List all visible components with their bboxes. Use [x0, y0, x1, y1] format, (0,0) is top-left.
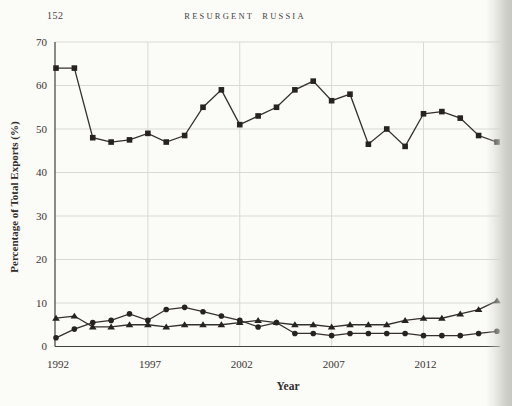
circle-marker — [494, 328, 500, 334]
circle-marker — [127, 311, 133, 317]
circle-marker — [182, 305, 188, 311]
circle-marker — [163, 307, 169, 313]
circle-marker — [402, 331, 408, 337]
square-marker — [310, 78, 316, 84]
triangle-marker — [493, 297, 501, 303]
circle-marker — [200, 309, 206, 315]
circle-marker — [90, 320, 96, 326]
y-tick-label: 70 — [36, 36, 48, 48]
circle-marker — [457, 333, 463, 339]
square-marker — [347, 91, 353, 97]
square-marker — [494, 139, 500, 145]
square-marker — [329, 98, 335, 104]
circle-marker — [421, 333, 427, 339]
square-marker — [145, 131, 151, 137]
triangle-marker — [475, 306, 483, 312]
exports-line-chart: 01020304050607019921997200220072012 — [0, 0, 512, 406]
circle-marker — [439, 333, 445, 339]
square-marker — [366, 141, 372, 147]
circle-series — [53, 305, 500, 341]
triangle-marker — [254, 317, 262, 323]
square-marker — [200, 104, 206, 110]
circle-marker — [310, 331, 316, 337]
circle-marker — [219, 313, 225, 319]
x-tick-label: 2007 — [323, 358, 346, 370]
square-marker — [292, 87, 298, 93]
circle-marker — [274, 320, 280, 326]
circle-marker — [255, 324, 261, 330]
x-tick-label: 2002 — [231, 358, 253, 370]
circle-marker — [145, 318, 151, 324]
square-marker — [182, 133, 188, 139]
square-marker — [402, 144, 408, 150]
y-tick-label: 50 — [36, 123, 48, 135]
square-marker — [53, 65, 59, 71]
y-tick-label: 60 — [36, 79, 48, 91]
square-marker — [476, 133, 482, 139]
y-tick-label: 40 — [36, 166, 48, 178]
square-marker — [72, 65, 78, 71]
circle-marker — [108, 318, 114, 324]
square-marker — [108, 139, 114, 145]
square-series — [53, 65, 500, 149]
square-marker — [384, 126, 390, 132]
square-marker — [439, 109, 445, 115]
circle-marker — [72, 326, 78, 332]
circle-marker — [347, 331, 353, 337]
circle-marker — [366, 331, 372, 337]
y-tick-label: 0 — [42, 340, 48, 352]
square-marker — [163, 139, 169, 145]
triangle-marker — [71, 313, 79, 319]
square-marker — [421, 111, 427, 117]
circle-marker — [384, 331, 390, 337]
square-marker — [255, 113, 261, 119]
y-tick-label: 30 — [36, 210, 48, 222]
y-axis-title: Percentage of Total Exports (%) — [8, 121, 20, 272]
square-marker — [457, 115, 463, 121]
book-page: 152 RESURGENT RUSSIA 0102030405060701992… — [0, 0, 512, 406]
circle-marker — [53, 335, 59, 341]
x-tick-label: 2012 — [415, 358, 437, 370]
circle-marker — [329, 333, 335, 339]
circle-marker — [292, 331, 298, 337]
x-tick-label: 1992 — [47, 358, 69, 370]
square-marker — [274, 104, 280, 110]
square-marker — [237, 122, 243, 128]
circle-marker — [476, 331, 482, 337]
x-axis-title: Year — [277, 380, 300, 392]
square-marker — [90, 135, 96, 141]
square-marker — [219, 87, 225, 93]
y-tick-label: 20 — [36, 253, 48, 265]
circle-marker — [237, 318, 243, 324]
y-tick-label: 10 — [36, 297, 48, 309]
square-marker — [127, 137, 133, 143]
x-tick-label: 1997 — [139, 358, 162, 370]
